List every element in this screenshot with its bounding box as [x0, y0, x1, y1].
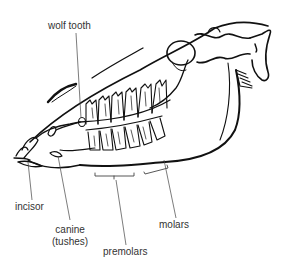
- canine-label: canine (tushes): [52, 224, 88, 248]
- molars-bracket: [144, 165, 168, 174]
- canine-leader: [58, 156, 70, 220]
- molars-label: molars: [159, 219, 189, 231]
- wolf-tooth-label: wolf tooth: [48, 20, 91, 32]
- premolars-leader: [116, 180, 126, 245]
- premolars-bracket: [95, 173, 134, 179]
- nasal-line: [92, 48, 143, 78]
- occipital: [250, 30, 271, 80]
- molars-leader: [164, 160, 176, 218]
- canine-label-line2: (tushes): [52, 236, 88, 248]
- canine-label-line1: canine: [52, 224, 88, 236]
- incisor-leader: [28, 162, 32, 200]
- facial-crest: [48, 84, 76, 102]
- lower-canine: [50, 152, 62, 157]
- skull-drawing: [0, 0, 286, 271]
- premolars-label: premolars: [103, 246, 147, 258]
- horse-skull-diagram: wolf tooth incisor canine (tushes) premo…: [0, 0, 286, 271]
- incisor-label: incisor: [15, 201, 44, 213]
